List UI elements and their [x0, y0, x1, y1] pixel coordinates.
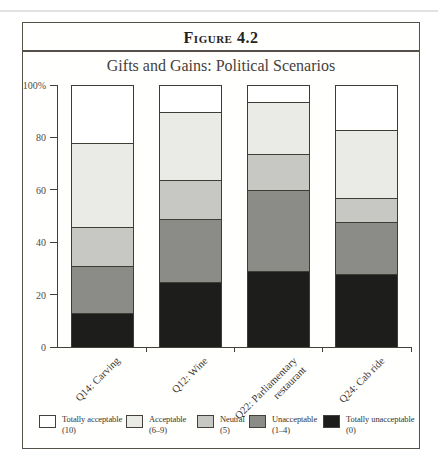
legend-label-name: Acceptable: [149, 414, 186, 425]
legend-swatch-totally-unacceptable: [323, 415, 340, 428]
bar-stack-q24-cab-ride: [335, 85, 398, 347]
legend: Totally acceptable(10)Acceptable(6–9)Neu…: [23, 414, 419, 449]
bar-segment-unacceptable: [72, 266, 133, 313]
y-axis-tick: [50, 347, 58, 348]
legend-swatch-totally-acceptable: [39, 415, 56, 428]
x-axis-tick: [411, 347, 412, 352]
legend-swatch-acceptable: [126, 415, 143, 428]
legend-label-totally-acceptable: Totally acceptable(10): [62, 414, 122, 436]
legend-label-range: (6–9): [149, 425, 186, 436]
legend-label-acceptable: Acceptable(6–9): [149, 414, 186, 436]
bar-segment-totally-unacceptable: [336, 274, 397, 347]
x-axis-tick: [146, 347, 147, 352]
legend-item-unacceptable: Unacceptable(1–4): [249, 414, 317, 436]
bar-segment-totally-acceptable: [248, 86, 309, 102]
bar-stack-q14-carving: [71, 85, 134, 347]
bar-segment-neutral: [248, 154, 309, 191]
legend-item-totally-acceptable: Totally acceptable(10): [39, 414, 122, 436]
bar-stack-q12-wine: [159, 85, 222, 347]
y-axis-tick: [50, 242, 58, 243]
scan-artifact-line: [0, 10, 438, 12]
bar-segment-neutral: [72, 227, 133, 266]
legend-label-range: (5): [220, 425, 245, 436]
legend-label-totally-unacceptable: Totally unacceptable(0): [346, 414, 414, 436]
bar-segment-acceptable: [248, 102, 309, 154]
y-axis-tick-label: 20: [36, 289, 46, 300]
bar-segment-totally-unacceptable: [72, 313, 133, 347]
bar-segment-totally-acceptable: [72, 86, 133, 143]
legend-label-range: (0): [346, 425, 414, 436]
bar-segment-unacceptable: [336, 222, 397, 274]
legend-label-range: (1–4): [272, 425, 317, 436]
figure-number: Figure 4.2: [23, 23, 419, 47]
y-axis-tick-label: 40: [36, 237, 46, 248]
bar-stack-q22-parliamentary-restaurant: [247, 85, 310, 347]
y-axis-tick-label: 100%: [23, 80, 46, 91]
bar-segment-totally-acceptable: [336, 86, 397, 130]
legend-label-range: (10): [62, 425, 122, 436]
figure-divider: [23, 50, 419, 52]
legend-swatch-unacceptable: [249, 415, 266, 428]
x-axis-tick: [234, 347, 235, 352]
bar-segment-acceptable: [160, 112, 221, 180]
legend-item-neutral: Neutral(5): [197, 414, 245, 436]
bar-segment-unacceptable: [160, 219, 221, 282]
legend-label-name: Totally unacceptable: [346, 414, 414, 425]
legend-label-neutral: Neutral(5): [220, 414, 245, 436]
y-axis-tick: [50, 137, 58, 138]
bar-segment-acceptable: [336, 130, 397, 198]
legend-label-unacceptable: Unacceptable(1–4): [272, 414, 317, 436]
bar-segment-neutral: [336, 198, 397, 221]
bar-segment-neutral: [160, 180, 221, 219]
legend-label-name: Unacceptable: [272, 414, 317, 425]
bar-segment-totally-acceptable: [160, 86, 221, 112]
y-axis-tick-label: 0: [41, 342, 46, 353]
figure-box: Figure 4.2 Gifts and Gains: Political Sc…: [22, 22, 420, 449]
bar-segment-totally-unacceptable: [248, 271, 309, 347]
y-axis-tick: [50, 189, 58, 190]
y-axis-tick: [50, 294, 58, 295]
y-axis-tick-label: 60: [36, 184, 46, 195]
figure-title: Gifts and Gains: Political Scenarios: [23, 57, 419, 75]
bar-segment-totally-unacceptable: [160, 282, 221, 347]
plot-area: 100%806040200Q14: CarvingQ12: WineQ22: P…: [57, 85, 411, 348]
y-axis-tick-label: 80: [36, 132, 46, 143]
legend-label-name: Totally acceptable: [62, 414, 122, 425]
page: { "figure": { "label": "Figure 4.2", "ti…: [0, 0, 438, 465]
x-axis-tick: [322, 347, 323, 352]
legend-label-name: Neutral: [220, 414, 245, 425]
bar-segment-unacceptable: [248, 190, 309, 271]
legend-item-acceptable: Acceptable(6–9): [126, 414, 186, 436]
legend-swatch-neutral: [197, 415, 214, 428]
legend-item-totally-unacceptable: Totally unacceptable(0): [323, 414, 414, 436]
bar-segment-acceptable: [72, 143, 133, 227]
y-axis-tick: [50, 85, 58, 86]
